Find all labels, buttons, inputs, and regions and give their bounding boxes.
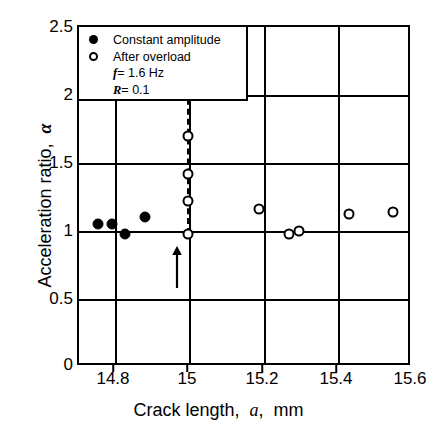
param-relation-f: =	[117, 66, 124, 80]
overload-up-arrow-icon	[170, 246, 184, 292]
data-point-after-overload	[388, 207, 399, 218]
data-point-constant-amplitude	[107, 219, 118, 230]
legend-marker-filled-circle-icon	[86, 35, 108, 44]
xtick-label-14.8: 14.8	[96, 369, 129, 389]
legend-marker-open-circle-icon	[86, 52, 108, 61]
legend-entry-constant-amplitude: Constant amplitude	[86, 31, 246, 48]
param-value-f: 1.6 Hz	[128, 66, 164, 80]
param-value-r: 0.1	[132, 83, 149, 97]
x-axis-title: Crack length, a, mm	[0, 400, 437, 421]
data-point-after-overload	[183, 131, 194, 142]
gridline-x-15.2	[264, 27, 266, 363]
legend: Constant amplitude After overload f= 1.6…	[77, 25, 248, 101]
data-point-after-overload	[344, 209, 355, 220]
legend-param-frequency: f= 1.6 Hz	[86, 65, 246, 82]
legend-entry-after-overload: After overload	[86, 48, 246, 65]
data-point-after-overload	[183, 229, 194, 240]
figure-container: Constant amplitude After overload f= 1.6…	[0, 0, 437, 439]
legend-label-after-overload: After overload	[108, 50, 191, 64]
data-point-after-overload	[254, 204, 265, 215]
legend-label-constant-amplitude: Constant amplitude	[108, 33, 221, 47]
xtick-label-15: 15	[178, 369, 197, 389]
x-axis-symbol-a: a	[250, 400, 259, 420]
data-point-constant-amplitude	[93, 219, 104, 230]
data-point-after-overload	[183, 196, 194, 207]
gridline-x-15.4	[338, 27, 340, 363]
overload-dashed-line	[187, 79, 189, 234]
xtick-label-15.4: 15.4	[319, 369, 352, 389]
data-point-after-overload	[294, 226, 305, 237]
param-relation-r: =	[121, 83, 128, 97]
up-arrow-svg	[170, 246, 184, 288]
data-point-after-overload	[183, 169, 194, 180]
xtick-label-15.2: 15.2	[245, 369, 278, 389]
ytick-label-0: 0	[33, 355, 73, 375]
data-point-constant-amplitude	[120, 229, 131, 240]
y-axis-symbol-alpha: α	[35, 123, 55, 133]
legend-param-ratio: R= 0.1	[86, 82, 246, 99]
ytick-label-2.5: 2.5	[33, 17, 73, 37]
data-point-constant-amplitude	[140, 212, 151, 223]
gridline-y-0.5	[79, 299, 408, 301]
gridline-y-1.5	[79, 163, 408, 165]
y-axis-title: Acceleration ratio, α	[35, 56, 56, 356]
xtick-label-15.6: 15.6	[393, 369, 426, 389]
